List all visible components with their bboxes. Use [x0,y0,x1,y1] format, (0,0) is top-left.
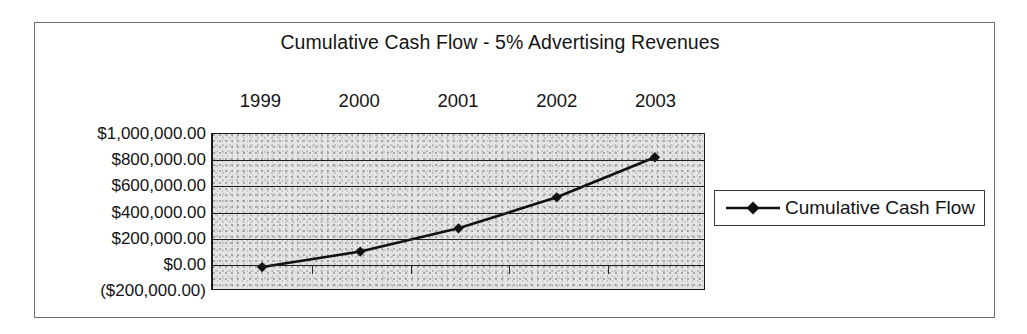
x-axis-tick-1999: 1999 [211,88,310,114]
x-axis-tickmark [312,265,313,274]
chart-legend: Cumulative Cash Flow [714,190,985,226]
y-axis-tick-6: ($200,000.00) [40,282,206,299]
y-axis-tick-1: $800,000.00 [40,151,206,168]
x-axis-tickmark [509,265,510,274]
chart-title: Cumulative Cash Flow - 5% Advertising Re… [60,31,940,54]
x-axis-tick-2003: 2003 [606,88,705,114]
plot-area [211,133,705,290]
data-point-2000 [355,246,365,256]
legend-label-cumulative-cash-flow: Cumulative Cash Flow [785,197,975,219]
y-axis-tick-0: $1,000,000.00 [40,125,206,142]
x-axis-tick-2000: 2000 [310,88,409,114]
data-point-1999 [257,262,267,272]
gridline [213,213,704,214]
gridline [213,160,704,161]
diamond-marker-icon [724,199,782,217]
gridline [213,186,704,187]
y-axis-tick-labels: $1,000,000.00$800,000.00$600,000.00$400,… [40,118,206,304]
x-axis-tickmark [608,265,609,274]
x-axis-tick-labels: 19992000200120022003 [211,88,705,114]
y-axis-tick-5: $0.00 [40,256,206,273]
x-axis-tick-2002: 2002 [507,88,606,114]
y-axis-tick-4: $200,000.00 [40,230,206,247]
gridline [213,265,704,266]
x-axis-tick-2001: 2001 [409,88,508,114]
x-axis-tickmark [411,265,412,274]
y-axis-tick-2: $600,000.00 [40,177,206,194]
gridline [213,239,704,240]
chart-figure: Cumulative Cash Flow - 5% Advertising Re… [0,0,1027,334]
y-axis-tick-3: $400,000.00 [40,204,206,221]
data-point-2002 [552,192,562,202]
data-point-2001 [453,223,463,233]
